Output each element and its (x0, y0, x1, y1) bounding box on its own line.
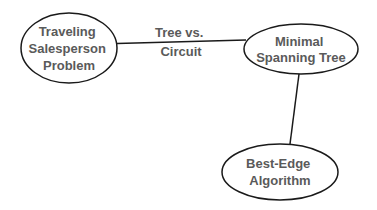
node-label-line: Traveling (39, 24, 96, 39)
node-label-line: Best-Edge (246, 156, 310, 171)
edge-tsp-mst (117, 40, 246, 44)
node-ellipse (222, 144, 338, 200)
node-label-line: Salesperson (29, 41, 106, 56)
concept-map: Tree vs. Circuit Traveling Salesperson P… (0, 0, 377, 210)
node-label-line: Algorithm (249, 173, 310, 188)
node-label-line: Minimal (275, 34, 323, 49)
node-traveling-salesperson-problem: Traveling Salesperson Problem (21, 13, 117, 83)
node-label-line: Problem (43, 58, 95, 73)
edge-label-line-1: Tree vs. (155, 25, 203, 40)
edge-mst-bea (290, 74, 299, 144)
node-best-edge-algorithm: Best-Edge Algorithm (222, 144, 338, 200)
edge-label-line-2: Circuit (160, 44, 202, 59)
node-ellipse (244, 24, 358, 74)
node-minimal-spanning-tree: Minimal Spanning Tree (244, 24, 358, 74)
node-label-line: Spanning Tree (256, 50, 346, 65)
